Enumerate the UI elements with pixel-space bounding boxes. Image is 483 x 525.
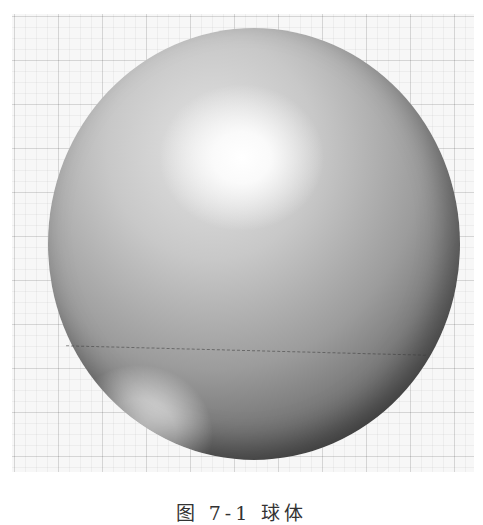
sphere-render	[48, 28, 460, 460]
grid-background	[12, 14, 474, 472]
figure-caption: 图 7-1 球体	[0, 498, 483, 525]
